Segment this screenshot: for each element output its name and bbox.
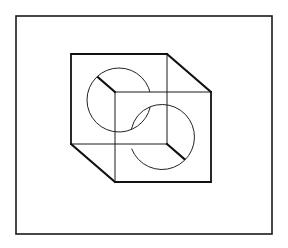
lower-right-circle-lens-arc bbox=[131, 107, 150, 130]
top-right-diagonal bbox=[167, 54, 211, 92]
cube-circles-figure bbox=[0, 0, 288, 248]
bottom-right-diagonal-segment bbox=[167, 144, 211, 182]
bottom-left-diagonal bbox=[71, 144, 115, 182]
upper-left-circle-inner-arc bbox=[115, 107, 150, 132]
top-left-diagonal-segment bbox=[71, 54, 115, 92]
lower-right-circle-main-arc bbox=[132, 104, 195, 169]
outer-frame bbox=[16, 16, 272, 234]
